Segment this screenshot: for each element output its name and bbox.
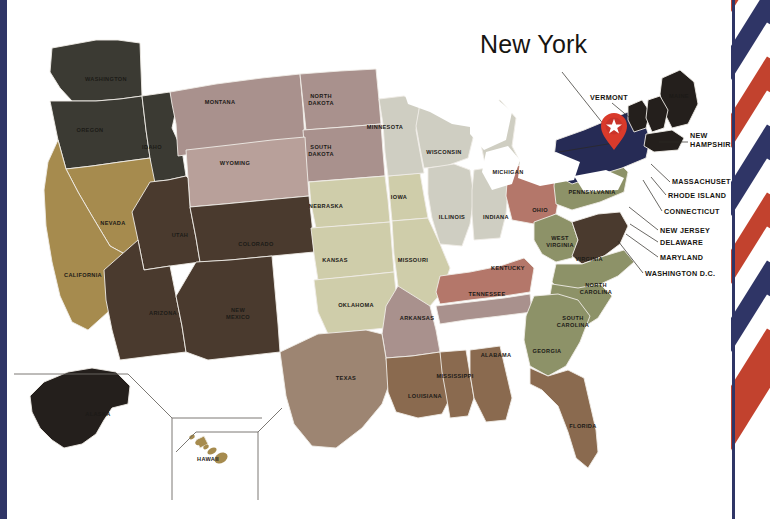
callout-label-nj: NEW JERSEY	[660, 226, 710, 235]
us-map-svg: WASHINGTONOREGONIDAHOMONTANANORTHDAKOTAS…	[0, 0, 770, 519]
state-label-ia: IOWA	[391, 194, 407, 200]
callout-label-vt: VERMONT	[590, 93, 628, 102]
state-label-la: LOUISIANA	[408, 393, 442, 399]
state-label-me: MAINE	[669, 93, 689, 99]
state-label-il: ILLINOIS	[439, 214, 465, 220]
state-label-ms: MISSISSIPPI	[436, 373, 473, 379]
hawaii-island-0	[188, 434, 195, 440]
state-label-sd: SOUTHDAKOTA	[308, 144, 334, 157]
state-label-ar: ARKANSAS	[400, 315, 435, 321]
callout-label-ri: RHODE ISLAND	[668, 191, 726, 200]
state-label-id: IDAHO	[142, 144, 162, 150]
state-label-ks: KANSAS	[322, 257, 348, 263]
state-label-ga: GEORGIA	[533, 348, 562, 354]
state-label-ky: KENTUCKY	[491, 265, 525, 271]
state-label-ut: UTAH	[172, 232, 189, 238]
state-label-oh: OHIO	[532, 207, 548, 213]
state-label-mn: MINNESOTA	[367, 124, 403, 130]
leader-ct	[643, 180, 662, 211]
state-label-tn: TENNESSEE	[468, 291, 505, 297]
state-tx[interactable]	[280, 330, 390, 448]
state-label-tx: TEXAS	[336, 375, 356, 381]
state-label-nc: NORTHCAROLINA	[580, 282, 612, 295]
state-shapes-group	[30, 40, 698, 468]
state-label-az: ARIZONA	[149, 310, 177, 316]
leader-md	[626, 234, 658, 257]
us-map-screenshot: WASHINGTONOREGONIDAHOMONTANANORTHDAKOTAS…	[0, 0, 770, 519]
state-label-co: COLORADO	[238, 241, 274, 247]
state-ne[interactable]	[309, 176, 390, 228]
state-co[interactable]	[190, 196, 314, 262]
state-label-ne: NEBRASKA	[309, 203, 344, 209]
state-label-in: INDIANA	[483, 214, 509, 220]
state-ga[interactable]	[524, 294, 590, 376]
state-label-fl: FLORIDA	[569, 423, 596, 429]
state-label-wy: WYOMING	[220, 160, 250, 166]
state-ks[interactable]	[311, 222, 394, 280]
callout-label-nh: NEWHAMPSHIRE	[690, 131, 736, 149]
callout-label-md: MARYLAND	[660, 253, 703, 262]
state-label-ak: ALASKA	[85, 411, 110, 417]
state-ak[interactable]	[30, 368, 130, 448]
state-label-nd: NORTHDAKOTA	[308, 93, 334, 106]
state-label-ok: OKLAHOMA	[338, 302, 374, 308]
state-label-pa: PENNSYLVANIA	[568, 189, 615, 195]
state-wy[interactable]	[186, 137, 309, 207]
state-label-wi: WISCONSIN	[426, 149, 461, 155]
state-label-va: VIRGINIA	[575, 256, 603, 262]
state-label-or: OREGON	[77, 127, 104, 133]
callout-label-ct: CONNECTICUT	[664, 207, 720, 216]
state-wa[interactable]	[50, 40, 142, 101]
state-nm[interactable]	[176, 256, 280, 360]
state-label-mo: MISSOURI	[398, 257, 429, 263]
state-label-al: ALABAMA	[481, 352, 512, 358]
state-label-ca: CALIFORNIA	[64, 272, 102, 278]
state-la[interactable]	[386, 352, 450, 418]
page-title: New York	[480, 30, 587, 59]
state-label-wa: WASHINGTON	[85, 76, 127, 82]
state-label-mt: MONTANA	[205, 99, 236, 105]
state-ma[interactable]	[644, 130, 684, 152]
flag-ribbon	[731, 0, 770, 519]
callout-label-dc: WASHINGTON D.C.	[645, 269, 715, 278]
state-mn[interactable]	[379, 96, 424, 176]
state-label-nv: NEVADA	[100, 220, 125, 226]
state-fl[interactable]	[530, 368, 598, 468]
leader-ma	[651, 164, 670, 182]
callout-label-de: DELAWARE	[660, 238, 703, 247]
state-label-hi: HAWAII	[197, 456, 219, 462]
ribbon-navy-rule	[732, 0, 735, 519]
state-label-mi: MICHIGAN	[492, 169, 523, 175]
leader-ri	[651, 177, 666, 195]
